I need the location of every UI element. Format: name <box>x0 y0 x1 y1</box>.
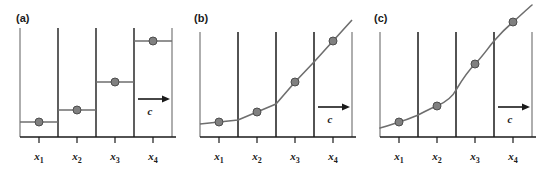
panel-b-cell-average-marker-2 <box>253 108 261 116</box>
panel-b-x-tick-label-2: x2 <box>251 150 262 165</box>
panel-c-x-tick-label-1: x1 <box>393 150 404 165</box>
panel-c-cell-average-marker-4 <box>509 18 517 26</box>
panel-b-velocity-label: c <box>328 113 333 125</box>
panel-b-cell-average-marker-3 <box>291 78 299 86</box>
panel-b-label: (b) <box>194 12 208 24</box>
panel-a-x-tick-label-2: x2 <box>71 150 82 165</box>
panel-b: (b) c <box>186 0 366 178</box>
panel-c-cell-average-marker-2 <box>433 102 441 110</box>
panel-a-cell-average-marker-2 <box>73 106 81 114</box>
panel-a-cell-average-marker-3 <box>111 78 119 86</box>
panel-a-label: (a) <box>16 12 30 24</box>
panel-a-velocity-label: c <box>148 105 153 117</box>
panel-a-cell-average-marker-4 <box>149 37 157 45</box>
panel-b-cell-average-marker-1 <box>215 118 223 126</box>
panel-b-velocity-arrow-icon <box>318 103 350 110</box>
figure-container: (a) c <box>0 0 546 178</box>
panel-a: (a) c <box>0 0 186 178</box>
panel-c: (c) c <box>366 0 546 178</box>
panel-a-x-tick-label-4: x4 <box>147 150 158 165</box>
panel-c-velocity-arrow-icon <box>498 103 530 110</box>
panel-b-x-tick-label-1: x1 <box>213 150 224 165</box>
panel-c-cell-average-marker-3 <box>471 60 479 68</box>
panel-a-velocity-arrow-icon <box>138 95 170 102</box>
panel-b-plot: (b) c <box>186 0 366 178</box>
panel-c-x-tick-label-2: x2 <box>431 150 442 165</box>
panel-b-x-tick-label-3: x3 <box>289 150 300 165</box>
panel-a-plot: (a) c <box>0 0 186 178</box>
panel-a-x-tick-label-3: x3 <box>109 150 120 165</box>
panel-a-cell-average-marker-1 <box>35 118 43 126</box>
panel-c-cell-average-marker-1 <box>395 118 403 126</box>
panel-c-x-tick-label-3: x3 <box>469 150 480 165</box>
panel-b-x-tick-label-4: x4 <box>327 150 338 165</box>
panel-a-x-tick-label-1: x1 <box>33 150 44 165</box>
panel-c-x-tick-label-4: x4 <box>507 150 518 165</box>
panel-b-cell-average-marker-4 <box>329 37 337 45</box>
panel-c-plot: (c) c <box>366 0 546 178</box>
panel-c-velocity-label: c <box>508 113 513 125</box>
panel-c-label: (c) <box>374 12 388 24</box>
